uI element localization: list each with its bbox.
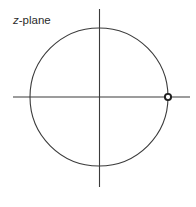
z-plane-diagram: z-plane	[0, 0, 196, 207]
plane-label: z-plane	[12, 14, 51, 26]
z-plane-figure: z-plane	[0, 0, 196, 207]
plane-label-suffix: -plane	[19, 14, 51, 26]
zero-marker-icon	[165, 94, 171, 100]
